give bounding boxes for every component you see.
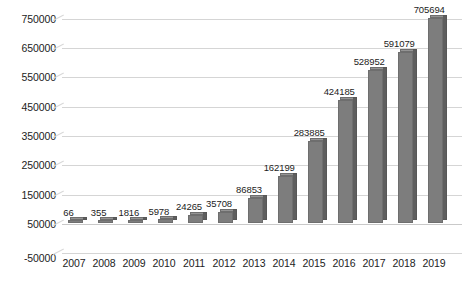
x-tick-label: 2009 <box>117 257 151 269</box>
bar-side-face <box>143 217 147 220</box>
bar-side-face <box>443 15 447 220</box>
plot-area: 66 355 1816 5978 <box>62 14 462 252</box>
x-tick-label: 2010 <box>147 257 181 269</box>
x-tick-label: 2019 <box>417 257 451 269</box>
bar[interactable] <box>128 220 143 223</box>
x-tick-label: 2018 <box>387 257 421 269</box>
y-tick-label: -50000 <box>0 253 56 264</box>
y-tick-label: 650000 <box>0 43 56 54</box>
x-tick-label: 2017 <box>357 257 391 269</box>
x-axis: 2007 2008 2009 2010 2011 2012 2013 2014 … <box>62 257 462 273</box>
bar[interactable] <box>428 18 443 223</box>
bar-chart: 750000 650000 550000 450000 350000 25000… <box>0 0 468 285</box>
bar-side-face <box>293 173 297 220</box>
bar[interactable] <box>278 176 293 223</box>
x-tick-label: 2015 <box>297 257 331 269</box>
bars-layer: 66 355 1816 5978 <box>62 14 462 252</box>
bar-side-face <box>383 67 387 220</box>
x-tick-label: 2011 <box>177 257 211 269</box>
bar-value-label: 283885 <box>294 128 325 138</box>
bar-value-label: 591079 <box>384 39 415 49</box>
bar-side-face <box>353 97 357 220</box>
bar-value-label: 86853 <box>236 185 262 195</box>
bar[interactable] <box>188 215 203 223</box>
x-tick-label: 2013 <box>237 257 271 269</box>
bar[interactable] <box>248 198 263 223</box>
y-tick-label: 250000 <box>0 160 56 171</box>
bar[interactable] <box>98 220 113 223</box>
y-tick-label: 550000 <box>0 72 56 83</box>
x-tick-label: 2014 <box>267 257 301 269</box>
bar[interactable] <box>398 52 413 223</box>
bar-value-label: 528952 <box>354 57 385 67</box>
bar[interactable] <box>68 220 83 223</box>
bar-value-label: 24265 <box>176 202 202 212</box>
bar[interactable] <box>368 70 383 223</box>
bar-value-label: 424185 <box>324 87 355 97</box>
y-tick-label: 450000 <box>0 102 56 113</box>
bar[interactable] <box>158 219 173 223</box>
bar-value-label: 35708 <box>206 199 232 209</box>
bar[interactable] <box>218 212 233 223</box>
bar-side-face <box>113 217 117 220</box>
bar-value-label: 162199 <box>264 163 295 173</box>
bar[interactable] <box>308 141 323 223</box>
x-tick-label: 2008 <box>87 257 121 269</box>
bar-side-face <box>83 217 87 220</box>
gridline <box>62 253 462 254</box>
x-tick-label: 2016 <box>327 257 361 269</box>
bar-side-face <box>413 49 417 220</box>
x-tick-label: 2007 <box>57 257 91 269</box>
bar[interactable] <box>338 100 353 223</box>
bar-value-label: 705694 <box>414 5 445 15</box>
y-tick-label: 750000 <box>0 14 56 25</box>
bar-side-face <box>323 138 327 220</box>
y-tick-label: 150000 <box>0 190 56 201</box>
bar-side-face <box>233 209 237 220</box>
y-tick-label: 50000 <box>0 219 56 230</box>
bar-side-face <box>203 212 207 220</box>
y-tick-label: 350000 <box>0 131 56 142</box>
y-axis: 750000 650000 550000 450000 350000 25000… <box>0 0 62 285</box>
bar-side-face <box>173 216 177 220</box>
bar-side-face <box>263 195 267 220</box>
x-tick-label: 2012 <box>207 257 241 269</box>
